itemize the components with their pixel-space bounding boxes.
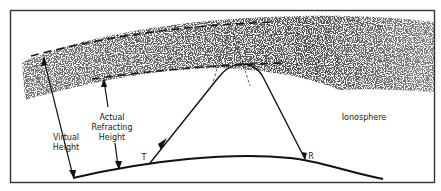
actual-height-label-3: Height	[99, 133, 125, 142]
transmitter-label: T	[141, 153, 147, 162]
ionosphere-refraction-diagram: Virtual Height Actual Refracting Height …	[0, 0, 441, 191]
ionosphere-label: Ionosphere	[342, 113, 387, 122]
actual-height-label-2: Refracting	[91, 123, 132, 132]
actual-height-label: Actual	[99, 113, 124, 122]
virtual-height-label: Virtual	[53, 133, 79, 142]
receiver-label: R	[308, 152, 314, 161]
virtual-height-label-2: Height	[53, 143, 79, 152]
